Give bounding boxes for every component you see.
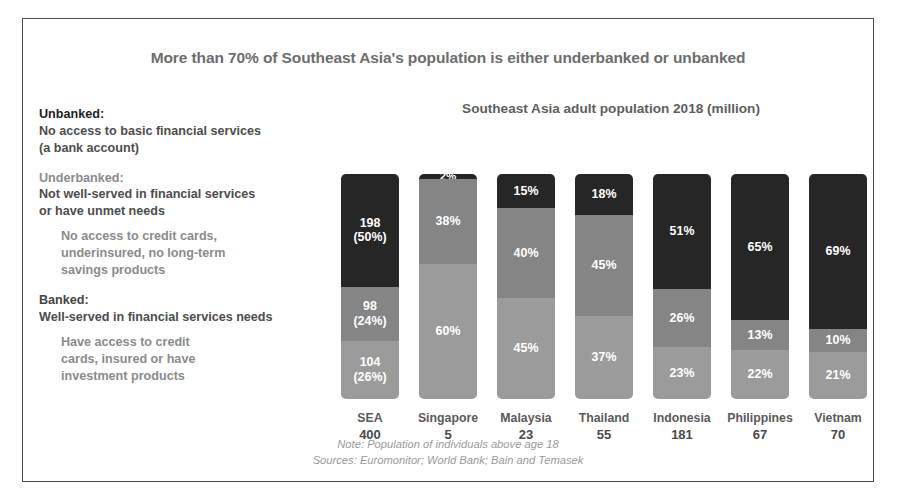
bar-segment-underbanked-thailand[interactable]: 45%: [575, 215, 633, 316]
legend-desc-underbanked: Not well-served in financial services or…: [39, 186, 339, 220]
bar-segment-banked-thailand[interactable]: 37%: [575, 316, 633, 399]
legend-term-unbanked: Unbanked:: [39, 106, 339, 123]
category-label-singapore: Singapore: [407, 411, 489, 425]
legend-subdesc-banked: Have access to credit cards, insured or …: [61, 334, 339, 385]
bar-segment-unbanked-thailand[interactable]: 18%: [575, 174, 633, 215]
bar-segment-banked-malaysia[interactable]: 45%: [497, 298, 555, 399]
chart-frame: More than 70% of Southeast Asia's popula…: [22, 18, 874, 482]
legend-term-banked: Banked:: [39, 292, 339, 309]
stacked-bar-singapore[interactable]: 2%38%60%: [419, 174, 477, 399]
stacked-bar-malaysia[interactable]: 15%40%45%: [497, 174, 555, 399]
bar-segment-unbanked-malaysia[interactable]: 15%: [497, 174, 555, 208]
bar-segment-underbanked-philippines[interactable]: 13%: [731, 320, 789, 349]
stacked-bar-philippines[interactable]: 65%13%22%: [731, 174, 789, 399]
bar-segment-underbanked-sea[interactable]: 98 (24%): [341, 287, 399, 341]
category-label-thailand: Thailand: [563, 411, 645, 425]
bar-segment-unbanked-sea[interactable]: 198 (50%): [341, 174, 399, 287]
stacked-bar-sea[interactable]: 198 (50%)98 (24%)104 (26%): [341, 174, 399, 399]
bar-segment-banked-vietnam[interactable]: 21%: [809, 352, 867, 399]
stacked-bar-vietnam[interactable]: 69%10%21%: [809, 174, 867, 399]
footnote-note: Note: Population of individuals above ag…: [23, 437, 873, 453]
chart-container: Southeast Asia adult population 2018 (mi…: [341, 101, 881, 427]
bar-segment-unbanked-philippines[interactable]: 65%: [731, 174, 789, 320]
bar-segment-banked-sea[interactable]: 104 (26%): [341, 341, 399, 400]
bar-segment-banked-philippines[interactable]: 22%: [731, 350, 789, 400]
bar-segment-underbanked-vietnam[interactable]: 10%: [809, 329, 867, 352]
category-label-philippines: Philippines: [719, 411, 801, 425]
page-title: More than 70% of Southeast Asia's popula…: [23, 49, 873, 67]
category-label-sea: SEA: [329, 411, 411, 425]
chart-title: Southeast Asia adult population 2018 (mi…: [341, 101, 881, 116]
legend-desc-banked: Well-served in financial services needs: [39, 309, 339, 326]
bar-segment-unbanked-vietnam[interactable]: 69%: [809, 174, 867, 329]
stacked-bar-indonesia[interactable]: 51%26%23%: [653, 174, 711, 399]
category-label-indonesia: Indonesia: [641, 411, 723, 425]
category-label-vietnam: Vietnam: [797, 411, 879, 425]
bar-segment-underbanked-singapore[interactable]: 38%: [419, 179, 477, 265]
bar-segment-underbanked-malaysia[interactable]: 40%: [497, 208, 555, 298]
legend-item-unbanked: Unbanked: No access to basic financial s…: [39, 106, 339, 157]
bar-segment-unbanked-indonesia[interactable]: 51%: [653, 174, 711, 289]
chart-footnote: Note: Population of individuals above ag…: [23, 437, 873, 468]
stacked-bar-plot: 400198 (50%)98 (24%)104 (26%)SEA52%38%60…: [341, 132, 881, 427]
footnote-sources: Sources: Euromonitor; World Bank; Bain a…: [23, 453, 873, 469]
legend-item-underbanked: Underbanked: Not well-served in financia…: [39, 170, 339, 280]
bar-segment-underbanked-indonesia[interactable]: 26%: [653, 289, 711, 348]
bar-segment-banked-indonesia[interactable]: 23%: [653, 347, 711, 399]
legend-panel: Unbanked: No access to basic financial s…: [39, 106, 339, 398]
category-label-malaysia: Malaysia: [485, 411, 567, 425]
bar-segment-banked-singapore[interactable]: 60%: [419, 264, 477, 399]
legend-subdesc-underbanked: No access to credit cards, underinsured,…: [61, 228, 339, 279]
stacked-bar-thailand[interactable]: 18%45%37%: [575, 174, 633, 399]
legend-term-underbanked: Underbanked:: [39, 170, 339, 187]
legend-desc-unbanked: No access to basic financial services (a…: [39, 123, 339, 157]
legend-item-banked: Banked: Well-served in financial service…: [39, 292, 339, 385]
